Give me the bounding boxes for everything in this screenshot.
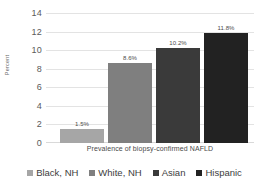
bar-slot: 8.6% <box>108 13 152 143</box>
bar-hispanic[interactable] <box>204 33 248 143</box>
legend-item-white-nh[interactable]: White, NH <box>89 167 141 178</box>
y-tick-label: 12 <box>2 27 42 36</box>
y-tick-label: 10 <box>2 46 42 55</box>
bar-value-label: 10.2% <box>169 40 187 46</box>
bar-value-label: 1.5% <box>75 121 89 127</box>
legend-label: White, NH <box>98 167 141 178</box>
bar-series: 1.5% 8.6% 10.2% 11.8% <box>46 13 254 143</box>
bar-slot: 1.5% <box>60 13 104 143</box>
y-tick-label: 2 <box>2 120 42 129</box>
legend-item-asian[interactable]: Asian <box>153 167 186 178</box>
legend-swatch-icon <box>89 170 95 176</box>
legend-item-hispanic[interactable]: Hispanic <box>196 167 241 178</box>
y-axis-ticks: 14 12 10 8 6 4 2 0 <box>0 13 42 143</box>
bar-asian[interactable] <box>156 48 200 143</box>
bar-white-nh[interactable] <box>108 63 152 143</box>
bar-chart: Percent 14 12 10 8 6 4 2 0 1.5% 8.6% <box>0 0 269 188</box>
legend-swatch-icon <box>27 170 33 176</box>
legend-item-black-nh[interactable]: Black, NH <box>27 167 78 178</box>
bar-slot: 10.2% <box>156 13 200 143</box>
legend-label: Asian <box>162 167 186 178</box>
y-tick-label: 14 <box>2 9 42 18</box>
bar-value-label: 8.6% <box>123 55 137 61</box>
x-axis-title: Prevalence of biopsy-confirmed NAFLD <box>46 145 254 152</box>
legend-label: Hispanic <box>205 167 241 178</box>
y-tick-label: 0 <box>2 139 42 148</box>
legend-swatch-icon <box>153 170 159 176</box>
chart-legend: Black, NH White, NH Asian Hispanic <box>0 167 269 178</box>
y-tick-label: 6 <box>2 83 42 92</box>
y-tick-label: 8 <box>2 64 42 73</box>
plot-area: 1.5% 8.6% 10.2% 11.8% <box>46 13 254 143</box>
bar-black-nh[interactable] <box>60 129 104 143</box>
bar-slot: 11.8% <box>204 13 248 143</box>
legend-swatch-icon <box>196 170 202 176</box>
bar-value-label: 11.8% <box>217 25 234 31</box>
legend-label: Black, NH <box>36 167 78 178</box>
y-tick-label: 4 <box>2 101 42 110</box>
